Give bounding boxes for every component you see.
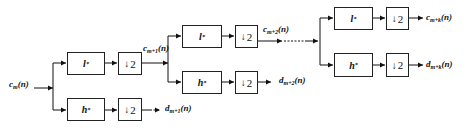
factor: 2 xyxy=(130,104,136,116)
highpass-filter-stage3: h* xyxy=(334,53,373,77)
factor: 2 xyxy=(398,59,404,71)
factor: 2 xyxy=(398,13,404,25)
signal-sub: m+k xyxy=(431,64,442,70)
signal-sub: m+1 xyxy=(147,48,158,54)
downsampler-low-stage2: ↓2 xyxy=(235,25,258,48)
signal-arg: (n) xyxy=(278,24,289,34)
lowpass-filter-stage1: l* xyxy=(67,52,105,75)
downsampler-high-stage2: ↓2 xyxy=(235,71,258,94)
signal-arg: (n) xyxy=(442,59,453,69)
signal-sub: m+2 xyxy=(284,80,295,86)
filter-sup: * xyxy=(202,34,205,40)
signal-arg: (n) xyxy=(295,75,306,85)
filter-sup: * xyxy=(353,16,356,22)
down-arrow-icon: ↓ xyxy=(392,13,397,24)
highpass-filter-stage2: h* xyxy=(182,71,222,94)
downsampler-high-stage1: ↓2 xyxy=(118,98,142,121)
highpass-filter-stage1: h* xyxy=(67,98,105,121)
signal-sub: m+2 xyxy=(267,29,278,35)
stage2-high-output-label: dm+2(n) xyxy=(279,76,306,86)
filter-sup: * xyxy=(203,80,206,86)
signal-arg: (n) xyxy=(158,43,169,53)
stage3-high-output-label: dm+k(n) xyxy=(426,60,453,70)
signal-sub: m+1 xyxy=(170,108,181,114)
lowpass-filter-stage3: l* xyxy=(334,7,373,30)
factor: 2 xyxy=(130,58,136,70)
input-signal-label: cm(n) xyxy=(9,80,29,90)
stage2-low-output-label: cm+2(n) xyxy=(263,25,289,35)
signal-arg: (n) xyxy=(18,79,29,89)
down-arrow-icon: ↓ xyxy=(392,60,397,71)
filter-sup: * xyxy=(87,107,90,113)
factor: 2 xyxy=(247,77,253,89)
lowpass-filter-stage2: l* xyxy=(182,25,222,48)
signal-arg: (n) xyxy=(181,103,192,113)
down-arrow-icon: ↓ xyxy=(124,58,129,69)
filter-sup: * xyxy=(86,61,89,67)
filter-sup: * xyxy=(355,62,358,68)
stage1-high-output-label: dm+1(n) xyxy=(165,104,192,114)
downsampler-low-stage1: ↓2 xyxy=(118,52,142,75)
downsampler-low-stage3: ↓2 xyxy=(386,7,409,30)
stage3-low-output-label: cm+k(n) xyxy=(426,13,452,23)
down-arrow-icon: ↓ xyxy=(241,31,246,42)
signal-sub: m+k xyxy=(430,17,441,23)
stage1-low-output-label: cm+1(n) xyxy=(143,44,169,54)
down-arrow-icon: ↓ xyxy=(124,104,129,115)
down-arrow-icon: ↓ xyxy=(241,77,246,88)
signal-arg: (n) xyxy=(441,12,452,22)
downsampler-high-stage3: ↓2 xyxy=(386,53,409,77)
factor: 2 xyxy=(247,31,253,43)
